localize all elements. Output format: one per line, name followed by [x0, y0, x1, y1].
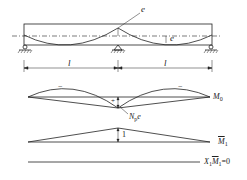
m0-triangle [28, 97, 210, 108]
support-middle [111, 45, 125, 53]
m1-diagram [28, 128, 210, 142]
m0-diagram [28, 89, 210, 114]
m0-sign-positive: + [111, 98, 115, 105]
support-right [204, 45, 218, 53]
np-e-leader [120, 107, 128, 114]
eccentricity-label-top: e [141, 5, 145, 14]
diagram-canvas [0, 0, 247, 180]
m0-sign-negative-right: − [178, 83, 183, 91]
support-left [18, 45, 32, 53]
m1-peak-value: 1 [122, 131, 126, 139]
m0-sign-negative-left: − [58, 83, 63, 91]
np-e-label: Npe [129, 113, 141, 122]
span-dimension [24, 60, 212, 72]
span-label-right: l [164, 59, 167, 68]
x1m1-label: X1M1=0 [204, 158, 230, 167]
m1-label: M1 [218, 138, 228, 147]
eccentricity-leader [118, 13, 140, 28]
span-label-left: l [68, 59, 71, 68]
m0-label: M0 [213, 93, 223, 102]
eccentricity-label-span: e [170, 34, 174, 43]
